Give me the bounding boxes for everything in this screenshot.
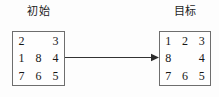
goal-state-label: 目标 <box>159 5 211 18</box>
cell-r3c2: 6 <box>177 67 194 85</box>
cell-r3c1: 7 <box>160 67 177 85</box>
right-arrow-icon <box>65 51 159 64</box>
cell-r3c1: 7 <box>13 67 30 85</box>
initial-state-grid: 2 3 1 8 4 7 6 5 <box>12 31 65 86</box>
cell-r3c2: 6 <box>30 67 47 85</box>
cell-r2c2: 8 <box>30 50 47 68</box>
cell-r3c3: 5 <box>47 67 64 85</box>
cell-r3c3: 5 <box>193 67 210 85</box>
cell-r1c1: 2 <box>13 32 30 50</box>
cell-r1c3: 3 <box>47 32 64 50</box>
initial-state-label: 初始 <box>12 5 65 18</box>
cell-r1c1: 1 <box>160 32 177 50</box>
cell-r1c3: 3 <box>193 32 210 50</box>
cell-r2c3: 4 <box>47 50 64 68</box>
cell-r2c2 <box>177 50 194 68</box>
cell-r2c1: 8 <box>160 50 177 68</box>
cell-r1c2: 2 <box>177 32 194 50</box>
puzzle-diagram: 初始 2 3 1 8 4 7 6 5 目标 1 2 3 8 4 7 6 5 <box>0 0 219 97</box>
cell-r1c2 <box>30 32 47 50</box>
cell-r2c3: 4 <box>193 50 210 68</box>
cell-r2c1: 1 <box>13 50 30 68</box>
goal-state-grid: 1 2 3 8 4 7 6 5 <box>159 31 211 86</box>
